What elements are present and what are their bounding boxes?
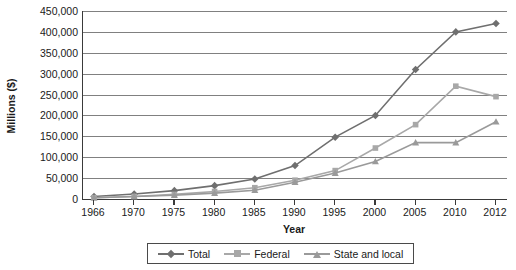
x-tick-label: 2012 (483, 206, 506, 218)
y-tick-label: 150,000 (40, 131, 78, 141)
x-tick (415, 200, 416, 205)
data-point (453, 83, 459, 89)
data-point (493, 118, 500, 124)
y-axis-title-label: Millions ($) (5, 79, 17, 134)
data-point (493, 94, 499, 100)
y-tick-label: 300,000 (40, 69, 78, 79)
x-tick (334, 200, 335, 205)
chart-legend: TotalFederalState and local (147, 243, 414, 264)
legend-label: Total (188, 248, 210, 260)
x-tick (173, 200, 174, 205)
data-point (251, 175, 259, 183)
data-point (413, 122, 419, 128)
plot-area (82, 11, 507, 200)
legend-item: Total (158, 248, 210, 260)
data-point (492, 20, 500, 28)
x-tick-label: 1995 (323, 206, 346, 218)
x-tick (254, 200, 255, 205)
legend-square-icon (224, 249, 250, 259)
legend-label: State and local (334, 248, 403, 260)
x-axis-tick-labels: 1966197019751980198519901995200020052010… (82, 206, 506, 222)
x-tick (133, 200, 134, 205)
x-tick-label: 2005 (403, 206, 426, 218)
series-line (94, 122, 496, 198)
x-tick-label: 1975 (162, 206, 185, 218)
y-tick-label: 450,000 (40, 6, 78, 16)
x-tick-label: 1966 (81, 206, 104, 218)
x-tick-label: 1970 (122, 206, 145, 218)
legend-item: State and local (304, 248, 403, 260)
x-tick-label: 2010 (443, 206, 466, 218)
legend-item: Federal (224, 248, 290, 260)
y-tick-label: 250,000 (40, 90, 78, 100)
x-tick (495, 200, 496, 205)
legend-triangle-icon (304, 249, 330, 259)
x-tick (374, 200, 375, 205)
y-axis-title: Millions ($) (0, 0, 22, 212)
x-tick-label: 2000 (363, 206, 386, 218)
x-axis-title: Year (82, 223, 506, 235)
x-tick-label: 1990 (282, 206, 305, 218)
data-point (373, 145, 379, 151)
x-tick-label: 1985 (242, 206, 265, 218)
x-tick (455, 200, 456, 205)
series-layer (83, 11, 507, 199)
x-tick-label: 1980 (202, 206, 225, 218)
x-tick (294, 200, 295, 205)
x-tick (214, 200, 215, 205)
y-tick-label: 50,000 (46, 173, 78, 183)
series-line (94, 24, 496, 197)
legend-diamond-icon (158, 249, 184, 259)
y-axis-tick-labels: 050,000100,000150,000200,000250,000300,0… (22, 0, 82, 212)
y-tick-label: 0 (72, 194, 78, 204)
y-tick-label: 200,000 (40, 110, 78, 120)
series-total (90, 20, 500, 201)
data-point (211, 182, 219, 190)
line-chart: Millions ($) 050,000100,000150,000200,00… (0, 0, 516, 270)
x-tick (93, 200, 94, 205)
legend-label: Federal (254, 248, 290, 260)
series-state-and-local (91, 118, 500, 200)
y-tick-label: 100,000 (40, 152, 78, 162)
y-tick-label: 400,000 (40, 27, 78, 37)
y-tick-label: 350,000 (40, 48, 78, 58)
